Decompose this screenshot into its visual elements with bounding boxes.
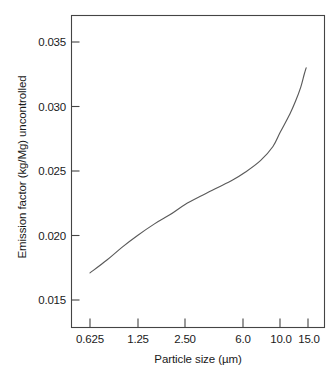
x-tick-label-group: 0.625 1.25 2.50 6.0 10.0 15.0 bbox=[0, 0, 335, 381]
x-tick-label: 15.0 bbox=[298, 333, 320, 345]
chart-figure: 0.035 0.030 0.025 0.020 0.015 0.625 1.25… bbox=[0, 0, 335, 381]
x-tick-label: 10.0 bbox=[270, 333, 292, 345]
x-tick-label: 2.50 bbox=[174, 333, 196, 345]
x-axis-title: Particle size (µm) bbox=[71, 353, 325, 365]
x-tick-label: 0.625 bbox=[76, 333, 104, 345]
x-tick-label: 1.25 bbox=[127, 333, 149, 345]
x-tick-label: 6.0 bbox=[235, 333, 250, 345]
